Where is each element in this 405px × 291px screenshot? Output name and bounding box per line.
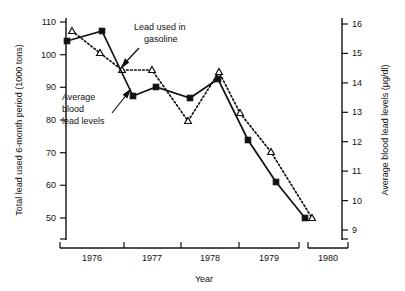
left-axis: 110 100 90 80 70 60 50 Total lead used 6… [14,17,66,240]
x-axis: 1976 1977 1978 1979 1980 Year [60,242,348,284]
left-tick-50: 50 [46,213,56,223]
right-tick-13: 13 [352,107,362,117]
right-tick-16: 16 [352,19,362,29]
right-tick-9: 9 [352,225,357,235]
x-tick-1978: 1978 [200,253,220,263]
left-tick-90: 90 [46,82,56,92]
right-tick-11: 11 [352,166,361,176]
annotation-average-blood-lead-levels: Average blood lead levels [62,90,130,126]
x-tick-1979: 1979 [259,253,279,263]
x-tick-1980: 1980 [318,253,338,263]
x-axis-title: Year [195,274,213,284]
left-tick-100: 100 [41,50,56,60]
right-tick-15: 15 [352,48,362,58]
right-tick-12: 12 [352,137,362,147]
x-tick-1976: 1976 [82,253,102,263]
annot-gasoline-line2: gasoline [144,34,178,44]
series-blood-markers [69,28,316,221]
annotation-lead-used-in-gasoline: Lead used in gasoline [122,22,186,67]
right-tick-14: 14 [352,78,362,88]
annot-blood-line2: blood [62,104,84,114]
chart-svg: 110 100 90 80 70 60 50 Total lead used 6… [0,0,405,291]
left-tick-110: 110 [42,17,56,27]
left-tick-80: 80 [46,115,56,125]
left-tick-70: 70 [46,148,56,158]
chart-container: 110 100 90 80 70 60 50 Total lead used 6… [0,0,405,291]
left-tick-60: 60 [46,180,56,190]
right-tick-10: 10 [352,196,362,206]
annot-blood-line3: lead levels [62,116,105,126]
left-axis-title: Total lead used 6-month period (1000 ton… [14,44,24,216]
annot-blood-line1: Average [62,92,95,102]
x-tick-1977: 1977 [142,253,162,263]
annot-gasoline-line1: Lead used in [134,22,186,32]
right-axis-title: Average blood lead levels (µg/dl) [380,64,390,195]
series-blood-lead-levels [69,28,316,221]
right-axis: 16 15 14 13 12 11 10 9 Average blood lea… [342,18,390,240]
